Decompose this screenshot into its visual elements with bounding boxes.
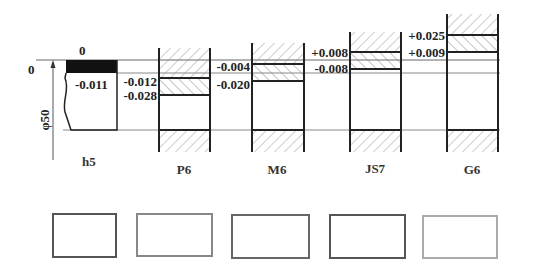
p6-upper-deviation: -0.012 — [123, 74, 157, 89]
js7-name: JS7 — [365, 161, 386, 176]
zero-label: 0 — [28, 62, 35, 77]
answer-box-3[interactable] — [231, 214, 310, 259]
g6-name: G6 — [464, 162, 481, 177]
shaft-lower-deviation: -0.011 — [75, 77, 108, 92]
answer-box-1[interactable] — [52, 213, 117, 258]
g6-upper-deviation: +0.025 — [408, 28, 445, 43]
answer-box-2[interactable] — [136, 213, 213, 257]
hole-m6: -0.004 -0.020 M6 — [216, 43, 304, 177]
shaft-upper-deviation: 0 — [79, 43, 86, 58]
js7-upper-deviation: +0.008 — [311, 45, 348, 60]
answer-box-5[interactable] — [422, 215, 498, 259]
arrow-head-icon — [51, 60, 56, 68]
m6-lower-deviation: -0.020 — [216, 77, 250, 92]
hole-g6: +0.025 +0.009 G6 — [408, 14, 498, 177]
p6-name: P6 — [177, 162, 192, 177]
m6-name: M6 — [268, 162, 287, 177]
g6-lower-deviation: +0.009 — [408, 45, 445, 60]
m6-upper-deviation: -0.004 — [216, 59, 250, 74]
hole-p6: -0.012 -0.028 P6 — [123, 48, 210, 177]
answer-box-4[interactable] — [329, 214, 406, 259]
shaft-h5: 0 -0.011 h5 — [64, 43, 117, 169]
shaft-name: h5 — [82, 154, 96, 169]
p6-lower-deviation: -0.028 — [123, 88, 157, 103]
basic-size-label: φ50 — [37, 109, 52, 130]
js7-lower-deviation: -0.008 — [314, 61, 348, 76]
hole-js7: +0.008 -0.008 JS7 — [311, 32, 401, 176]
